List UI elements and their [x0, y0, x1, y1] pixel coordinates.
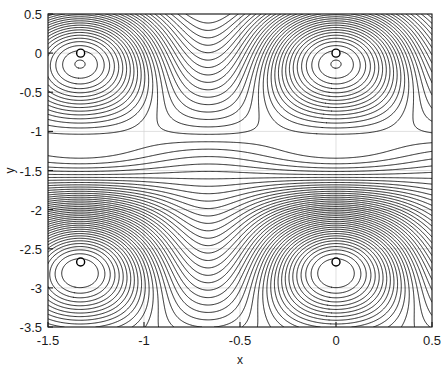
contour-plot-svg: 0.5 0 -0.5 -1 -1.5 -2 -2.5 -3 -3.5 -1.5 …: [0, 0, 447, 370]
ytick-label: -1: [30, 124, 42, 139]
ytick-label: -2.5: [20, 242, 42, 257]
y-axis-title: y: [3, 168, 17, 174]
ytick-label: -3: [30, 281, 42, 296]
xtick-label: -1: [138, 333, 150, 348]
ytick-label: -2: [30, 203, 42, 218]
critical-point-marker: [77, 49, 85, 57]
ytick-label: -0.5: [20, 85, 42, 100]
xtick-label: 0: [332, 333, 339, 348]
ytick-label: 0: [35, 46, 42, 61]
x-axis-title: x: [237, 353, 243, 367]
contour-plot-figure: 0.5 0 -0.5 -1 -1.5 -2 -2.5 -3 -3.5 -1.5 …: [0, 0, 447, 370]
ytick-label: -1.5: [20, 164, 42, 179]
xtick-label: 0.5: [423, 333, 441, 348]
critical-point-marker: [77, 258, 85, 266]
xtick-label: -0.5: [229, 333, 251, 348]
critical-point-marker: [332, 49, 340, 57]
ytick-label: 0.5: [24, 7, 42, 22]
xtick-label: -1.5: [37, 333, 59, 348]
critical-point-marker: [332, 258, 340, 266]
